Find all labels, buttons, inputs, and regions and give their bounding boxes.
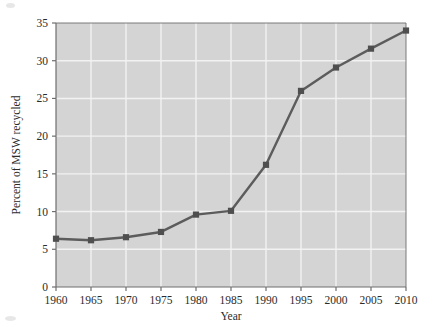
x-tick-label: 2000 [325,294,348,306]
x-axis-tick-labels: 1960196519701975198019851990199520002005… [45,294,418,306]
data-point-marker [53,236,59,242]
y-axis-title: Percent of MSW recycled [10,95,23,214]
y-tick-label: 5 [42,243,48,255]
data-point-marker [228,208,234,214]
x-tick-label: 2005 [360,294,383,306]
x-tick-label: 1990 [255,294,278,306]
x-tick-label: 1970 [115,294,138,306]
data-point-marker [368,46,374,52]
scan-artifact [5,316,16,321]
data-point-marker [333,64,339,70]
y-tick-label: 15 [37,168,49,180]
data-point-marker [193,211,199,217]
data-point-marker [158,229,164,235]
y-tick-label: 0 [42,281,48,293]
y-tick-label: 25 [37,92,49,104]
data-point-marker [403,27,409,33]
x-tick-label: 1965 [80,294,103,306]
x-tick-label: 1960 [45,294,68,306]
x-tick-label: 2010 [395,294,418,306]
x-tick-label: 1985 [220,294,243,306]
y-tick-label: 30 [37,55,49,67]
data-point-marker [298,88,304,94]
x-tick-label: 1995 [290,294,313,306]
chart-figure: 05101520253035 1960196519701975198019851… [0,0,423,326]
data-point-marker [123,234,129,240]
line-chart-svg: 05101520253035 1960196519701975198019851… [0,0,423,326]
y-tick-label: 35 [37,17,49,29]
scan-artifact [6,3,15,8]
y-tick-label: 10 [37,206,49,218]
x-axis-title: Year [220,310,241,322]
y-axis-tick-labels: 05101520253035 [37,17,49,293]
data-point-marker [263,162,269,168]
data-point-marker [88,237,94,243]
x-tick-label: 1980 [185,294,208,306]
y-tick-label: 20 [37,130,49,142]
x-tick-label: 1975 [150,294,173,306]
